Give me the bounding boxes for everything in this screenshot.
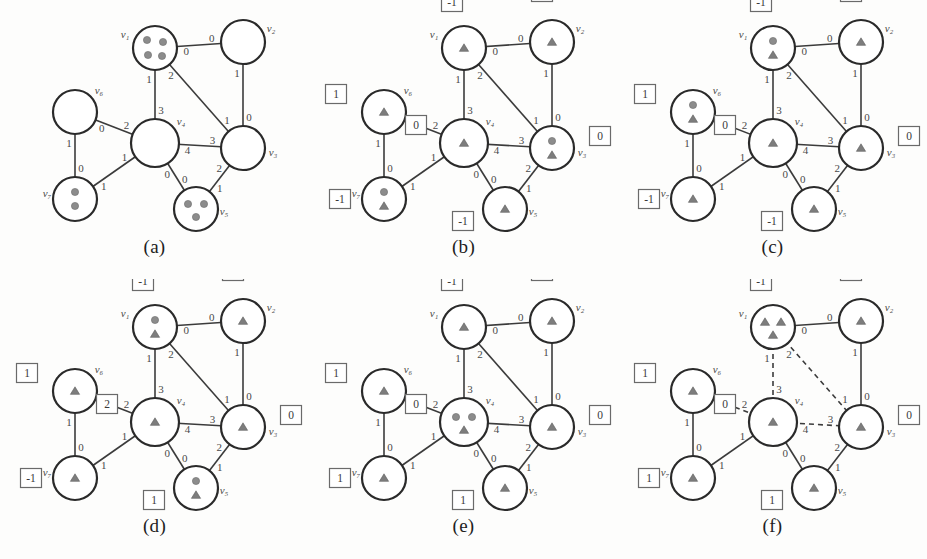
node-circle-v3[interactable] xyxy=(530,126,574,170)
port-label-v4-v5: 0 xyxy=(783,168,789,180)
node-v4[interactable]: v₄ xyxy=(440,394,495,446)
potential-value-v4: 0 xyxy=(722,119,728,131)
panel-caption-a: (a) xyxy=(0,236,309,258)
port-label-v4-v3: 4 xyxy=(185,423,191,435)
node-v2[interactable]: v₂ xyxy=(839,20,894,64)
port-label-v4-v6: 2 xyxy=(742,119,748,131)
port-label-v6-v7: 1 xyxy=(375,416,381,428)
node-circle-v1[interactable] xyxy=(751,26,795,70)
panel-caption-b: (b) xyxy=(309,236,618,258)
node-circle-v5[interactable] xyxy=(174,466,218,510)
port-label-v1-v3: 2 xyxy=(477,348,483,360)
node-circle-v3[interactable] xyxy=(221,126,265,170)
vertex-label-v5: v₅ xyxy=(529,205,538,217)
potential-value-v1: -1 xyxy=(756,279,766,287)
potential-box-v2 xyxy=(841,0,862,2)
node-v7[interactable]: v₇ xyxy=(43,177,97,221)
potential-value-v1: -1 xyxy=(447,0,457,8)
node-v3[interactable]: v₃ xyxy=(221,126,278,170)
potential-value-v4: 0 xyxy=(722,398,728,410)
node-v1[interactable]: v₁ xyxy=(430,305,486,349)
vertex-label-v4: v₄ xyxy=(795,394,804,406)
node-v6[interactable]: v₆ xyxy=(53,84,104,134)
node-v2[interactable]: v₂ xyxy=(530,299,585,343)
node-v1[interactable]: v₁ xyxy=(739,305,795,349)
port-label-v5-v3: 1 xyxy=(217,461,223,473)
potential-value-v3: 0 xyxy=(906,409,912,421)
node-circle-v1[interactable] xyxy=(133,26,177,70)
node-circle-v7[interactable] xyxy=(53,177,97,221)
port-label-v6-v7: 1 xyxy=(66,416,72,428)
port-label-v3-v5: 2 xyxy=(835,441,841,453)
node-v4[interactable]: v₄ xyxy=(440,115,495,167)
node-v7[interactable]: v₇ xyxy=(661,456,715,500)
port-label-v2-v3: 1 xyxy=(234,346,240,358)
panel-b: 00102113430012021011v₁v₂v₃v₄v₅v₆v₇-1000-… xyxy=(309,0,618,279)
potential-value-v5: -1 xyxy=(458,215,468,227)
node-v7[interactable]: v₇ xyxy=(43,456,97,500)
node-v7[interactable]: v₇ xyxy=(352,456,406,500)
node-v2[interactable]: v₂ xyxy=(530,20,585,64)
node-circle-v6[interactable] xyxy=(53,90,97,134)
port-label-v6-v7: 1 xyxy=(375,137,381,149)
vertex-label-v7: v₇ xyxy=(352,187,361,199)
vertex-label-v4: v₄ xyxy=(177,115,186,127)
node-v2[interactable]: v₂ xyxy=(221,299,276,343)
vertex-label-v7: v₇ xyxy=(43,187,52,199)
port-label-v2-v3: 1 xyxy=(852,67,858,79)
potential-value-v1: -1 xyxy=(756,0,766,8)
potential-value-v1: -1 xyxy=(138,279,148,287)
node-v2[interactable]: v₂ xyxy=(221,20,276,64)
figure-root: 00102113430012021011v₁v₂v₃v₄v₅v₆v₇(a)001… xyxy=(0,0,927,559)
node-v1[interactable]: v₁ xyxy=(121,26,177,70)
node-v3[interactable]: v₃ xyxy=(530,126,587,170)
node-v4[interactable]: v₄ xyxy=(749,115,804,167)
node-circle-v4[interactable] xyxy=(131,119,179,167)
port-label-v4-v7: 1 xyxy=(431,151,437,163)
vertex-label-v4: v₄ xyxy=(177,394,186,406)
port-label-v1-v4: 1 xyxy=(455,352,461,364)
node-v7[interactable]: v₇ xyxy=(661,177,715,221)
vertex-label-v3: v₃ xyxy=(887,425,896,437)
node-v3[interactable]: v₃ xyxy=(839,405,896,449)
node-circle-v2[interactable] xyxy=(221,20,265,64)
node-circle-v1[interactable] xyxy=(133,305,177,349)
port-label-v3-v2: 0 xyxy=(246,390,252,402)
vertex-label-v6: v₆ xyxy=(95,363,104,375)
node-circle-v4[interactable] xyxy=(440,398,488,446)
potential-value-v6: 1 xyxy=(24,367,30,379)
node-v2[interactable]: v₂ xyxy=(839,299,894,343)
port-label-v3-v1: 1 xyxy=(533,393,539,405)
vertex-label-v2: v₂ xyxy=(576,22,585,34)
node-v4[interactable]: v₄ xyxy=(749,394,804,446)
port-label-v7-v6: 0 xyxy=(387,162,393,174)
node-v3[interactable]: v₃ xyxy=(530,405,587,449)
node-circle-v1[interactable] xyxy=(751,305,795,349)
node-v1[interactable]: v₁ xyxy=(430,26,486,70)
potential-value-v1: -1 xyxy=(447,279,457,287)
vertex-label-v5: v₅ xyxy=(220,484,229,496)
node-v1[interactable]: v₁ xyxy=(739,26,795,70)
node-v1[interactable]: v₁ xyxy=(121,305,177,349)
port-label-v3-v4: 3 xyxy=(519,134,525,146)
node-v7[interactable]: v₇ xyxy=(352,177,406,221)
vertex-label-v7: v₇ xyxy=(661,466,670,478)
port-label-v2-v3: 1 xyxy=(543,67,549,79)
node-circle-v6[interactable] xyxy=(671,90,715,134)
vertex-label-v3: v₃ xyxy=(269,425,278,437)
port-label-v3-v1: 1 xyxy=(224,114,230,126)
vertex-label-v3: v₃ xyxy=(887,146,896,158)
node-v3[interactable]: v₃ xyxy=(839,126,896,170)
node-v4[interactable]: v₄ xyxy=(131,394,186,446)
vertex-label-v1: v₁ xyxy=(739,28,748,40)
port-label-v7-v6: 0 xyxy=(696,162,702,174)
node-circle-v7[interactable] xyxy=(362,177,406,221)
node-v3[interactable]: v₃ xyxy=(221,405,278,449)
potential-value-v3: 0 xyxy=(597,409,603,421)
node-v4[interactable]: v₄ xyxy=(131,115,186,167)
node-circle-v5[interactable] xyxy=(174,187,218,231)
port-label-v4-v1: 3 xyxy=(158,104,164,116)
port-label-v4-v5: 0 xyxy=(783,447,789,459)
panel-caption-d: (d) xyxy=(0,515,309,537)
vertex-label-v2: v₂ xyxy=(267,22,276,34)
